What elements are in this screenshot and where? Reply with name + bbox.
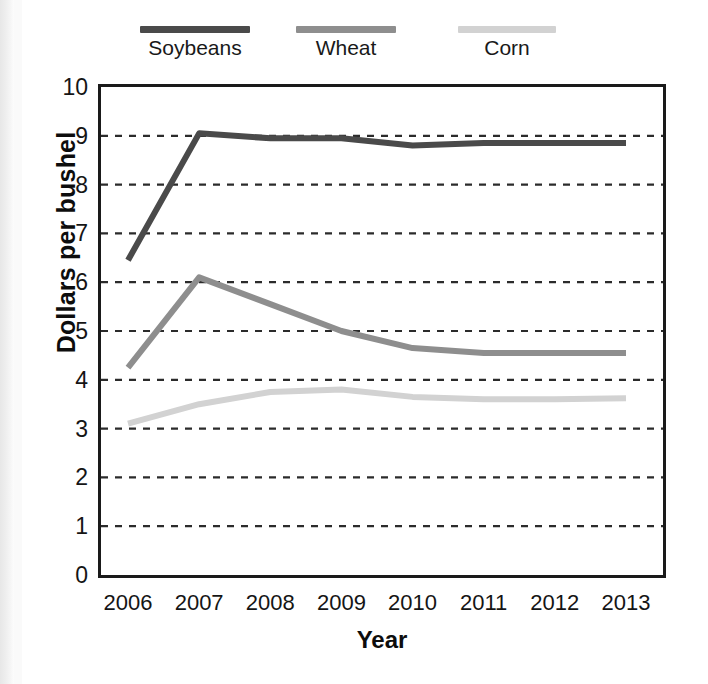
x-tick-2009: 2009: [306, 592, 376, 614]
x-axis-title: Year: [98, 626, 666, 654]
legend-swatch-wheat: [296, 26, 396, 33]
y-tick-2: 2: [38, 466, 88, 489]
x-tick-2012: 2012: [520, 592, 590, 614]
legend-item-soybeans[interactable]: Soybeans: [140, 26, 250, 61]
series-line-soybeans[interactable]: [128, 133, 626, 260]
chart-legend: Soybeans Wheat Corn: [98, 26, 666, 72]
chart-canvas: [101, 87, 663, 575]
x-tick-2010: 2010: [378, 592, 448, 614]
legend-label-soybeans: Soybeans: [140, 35, 250, 61]
x-tick-2008: 2008: [235, 592, 305, 614]
x-tick-2006: 2006: [93, 592, 163, 614]
y-tick-3: 3: [38, 418, 88, 441]
legend-swatch-soybeans: [140, 26, 250, 33]
legend-item-corn[interactable]: Corn: [458, 26, 556, 61]
legend-item-wheat[interactable]: Wheat: [296, 26, 396, 61]
x-tick-2013: 2013: [591, 592, 661, 614]
chart-page: Soybeans Wheat Corn 109876543210 Dollars…: [0, 0, 708, 684]
x-tick-2011: 2011: [449, 592, 519, 614]
series-line-wheat[interactable]: [128, 277, 626, 367]
x-axis-tick-labels: 20062007200820092010201120122013: [0, 584, 708, 624]
plot-area: [98, 84, 666, 578]
y-tick-1: 1: [38, 515, 88, 538]
x-tick-2007: 2007: [164, 592, 234, 614]
series-line-corn[interactable]: [128, 390, 626, 424]
legend-label-corn: Corn: [458, 35, 556, 61]
legend-swatch-corn: [458, 26, 556, 33]
y-axis-title: Dollars per bushel: [52, 93, 81, 393]
legend-label-wheat: Wheat: [296, 35, 396, 61]
